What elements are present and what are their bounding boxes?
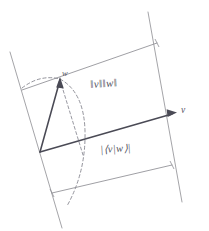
projection-drop-dashed — [60, 80, 83, 155]
label-norm-product: ‖v‖‖w‖ — [90, 76, 118, 90]
label-vector-v: v — [181, 105, 185, 115]
vector-v-arrowhead — [167, 109, 177, 117]
right-rail-line — [148, 12, 182, 202]
lower-cap-line — [52, 165, 172, 193]
figure-canvas — [0, 0, 209, 231]
upper-cap-tick — [155, 39, 159, 47]
vector-w-shaft — [40, 80, 60, 152]
label-vector-w: w — [62, 68, 68, 78]
cauchy-schwarz-figure: ‖v‖‖w‖ |⟨v|w⟩| v w — [0, 0, 209, 231]
label-inner-product: |⟨v|w⟩| — [100, 141, 131, 155]
